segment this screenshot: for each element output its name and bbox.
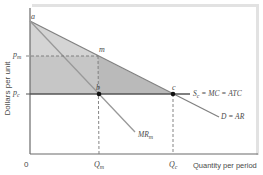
demand-label: D = AR	[221, 113, 244, 121]
qc-label: Qc	[169, 161, 177, 170]
point-b-label: b	[96, 84, 100, 92]
pc-sub: c	[17, 92, 20, 98]
point-m-label: m	[99, 46, 105, 54]
qc-sub: c	[175, 164, 178, 170]
frame-top	[32, 4, 258, 7]
monopoly-vs-competition-diagram: Dollars per unit pm pc a m b c Sc = MC =…	[0, 0, 263, 175]
point-a-label: a	[31, 13, 35, 21]
supply-rest: = MC = ATC	[199, 89, 241, 98]
point-c-marker	[171, 92, 176, 97]
pm-label: pm	[13, 51, 21, 60]
point-b-marker	[97, 92, 102, 97]
y-axis-label: Dollars per unit	[3, 54, 12, 124]
mr-sub: m	[149, 134, 153, 140]
origin-label: 0	[24, 161, 28, 169]
mr-main: MR	[138, 130, 149, 139]
diagram-canvas	[0, 0, 263, 175]
monopoly-profit-area	[30, 56, 99, 94]
mr-label: MRm	[138, 131, 153, 140]
supply-label: Sc = MC = ATC	[193, 90, 242, 99]
x-axis-label: Quantity per period	[193, 162, 257, 170]
pm-sub: m	[17, 54, 21, 60]
point-c-label: c	[172, 84, 176, 92]
frame-right	[256, 4, 259, 155]
qm-sub: m	[100, 164, 104, 170]
pc-label: pc	[13, 89, 20, 98]
qm-label: Qm	[94, 161, 104, 170]
